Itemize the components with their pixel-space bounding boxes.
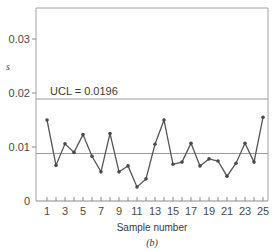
x-tick-label: 1 bbox=[44, 205, 50, 217]
s-control-chart: UCL = 0.0196 00.010.020.03 1357911131517… bbox=[0, 0, 273, 251]
x-tick-label: 7 bbox=[98, 205, 104, 217]
data-point bbox=[144, 177, 148, 181]
data-point bbox=[171, 162, 175, 166]
x-tick-label: 21 bbox=[221, 205, 233, 217]
x-tick-label: 25 bbox=[257, 205, 269, 217]
data-point bbox=[117, 170, 121, 174]
ucl-label: UCL = 0.0196 bbox=[50, 85, 118, 97]
data-point bbox=[54, 164, 58, 168]
data-point bbox=[207, 157, 211, 161]
x-tick-label: 11 bbox=[131, 205, 142, 217]
y-axis: 00.010.020.03 bbox=[9, 33, 36, 207]
y-axis-label: s bbox=[6, 61, 10, 72]
x-axis-label: Sample number bbox=[117, 222, 188, 233]
x-axis: 135791113151719212325 bbox=[44, 197, 269, 217]
data-point bbox=[243, 141, 247, 145]
y-tick-label: 0.03 bbox=[9, 33, 30, 45]
data-point bbox=[90, 154, 94, 158]
panel-label: (b) bbox=[146, 237, 158, 249]
y-tick-label: 0 bbox=[24, 195, 30, 207]
data-point bbox=[162, 118, 166, 122]
data-point bbox=[45, 118, 49, 122]
x-tick-label: 5 bbox=[80, 205, 86, 217]
series-line bbox=[47, 117, 263, 187]
data-point bbox=[72, 151, 76, 155]
x-tick-label: 15 bbox=[167, 205, 179, 217]
data-point bbox=[99, 170, 103, 174]
x-tick-label: 23 bbox=[239, 205, 251, 217]
data-point bbox=[225, 174, 229, 178]
data-point bbox=[153, 143, 157, 147]
y-tick-label: 0.02 bbox=[9, 87, 30, 99]
data-point bbox=[180, 160, 184, 164]
y-tick-label: 0.01 bbox=[9, 141, 30, 153]
data-point bbox=[216, 159, 220, 163]
x-tick-label: 9 bbox=[116, 205, 122, 217]
data-point bbox=[126, 164, 130, 168]
data-point bbox=[135, 185, 139, 189]
data-point bbox=[198, 164, 202, 168]
x-tick-label: 17 bbox=[185, 205, 197, 217]
data-point bbox=[252, 160, 256, 164]
x-tick-label: 19 bbox=[203, 205, 215, 217]
plot-border bbox=[36, 8, 268, 201]
x-tick-label: 3 bbox=[62, 205, 68, 217]
reference-lines: UCL = 0.0196 bbox=[36, 85, 268, 153]
data-point bbox=[189, 141, 193, 145]
data-point bbox=[81, 133, 85, 137]
data-point bbox=[234, 161, 238, 165]
data-series bbox=[45, 116, 265, 189]
plot-frame bbox=[36, 8, 268, 201]
data-point bbox=[261, 116, 265, 120]
x-tick-label: 13 bbox=[149, 205, 161, 217]
data-point bbox=[108, 132, 112, 136]
data-point bbox=[63, 142, 67, 146]
